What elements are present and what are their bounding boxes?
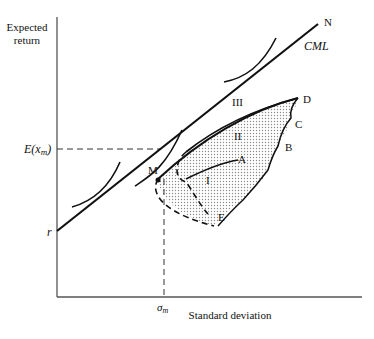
cml-diagram: Expected return E(xm) r σm Standard devi…	[0, 0, 374, 339]
market-point-label: M	[148, 164, 158, 176]
point-label-E: E	[218, 211, 225, 223]
y-tick-expected-return-main: E(x	[23, 142, 41, 156]
point-label-C: C	[295, 118, 302, 130]
cml-label: CML	[304, 39, 329, 53]
x-tick-sigma: σm	[157, 301, 168, 315]
cml-end-label-N: N	[324, 16, 332, 28]
indifference-curve-high	[224, 38, 276, 82]
region-label-II: II	[234, 130, 242, 142]
region-label-I: I	[206, 174, 210, 186]
market-point	[156, 178, 161, 183]
x-axis-label: Standard deviation	[189, 309, 272, 321]
region-label-III: III	[232, 96, 243, 108]
x-tick-sigma-sub: m	[162, 306, 168, 315]
point-label-B: B	[285, 141, 292, 153]
y-tick-expected-return: E(xm)	[23, 142, 51, 157]
point-label-A: A	[238, 153, 246, 165]
point-label-D: D	[303, 93, 311, 105]
y-tick-expected-return-close: )	[46, 142, 51, 156]
y-tick-risk-free: r	[47, 225, 52, 239]
y-axis-label-line2: return	[14, 34, 41, 46]
y-axis-label-line1: Expected	[7, 21, 48, 33]
